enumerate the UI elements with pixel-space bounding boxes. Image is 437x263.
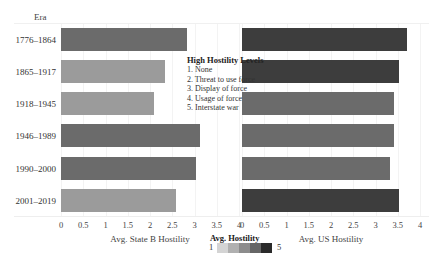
annotation-item: 3. Display of force xyxy=(187,84,264,94)
color-legend-ramp xyxy=(217,243,272,253)
gridline xyxy=(398,24,399,216)
gridline xyxy=(420,24,421,216)
axis-tick-label: 2 xyxy=(148,220,152,230)
state-b-bar[interactable] xyxy=(61,60,165,83)
us-bar[interactable] xyxy=(242,157,390,180)
color-legend-max: 5 xyxy=(277,242,281,252)
axis-tick-label: 2.5 xyxy=(348,220,359,230)
color-legend-title: Avg. Hostility xyxy=(210,233,259,243)
gridline xyxy=(287,24,288,216)
axis-tick-label: 1 xyxy=(103,220,107,230)
axis-tick-label: 0.5 xyxy=(78,220,89,230)
state-b-bar[interactable] xyxy=(61,124,200,147)
gridline xyxy=(217,24,218,216)
era-column-header: Era xyxy=(34,12,47,22)
color-legend-min: 1 xyxy=(209,242,213,252)
hostility-levels-annotation: High Hostility Levels 1. None 2. Threat … xyxy=(187,55,264,113)
axis-tick-label: 2.5 xyxy=(167,220,178,230)
axis-tick-label: 1 xyxy=(284,220,288,230)
axis-tick-label: 4 xyxy=(418,220,422,230)
state-b-axis-title: Avg. State B Hostility xyxy=(110,234,189,244)
annotation-item: 1. None xyxy=(187,65,264,75)
annotation-title: High Hostility Levels xyxy=(187,55,264,65)
era-label: 1946–1989 xyxy=(14,131,56,141)
axis-tick-label: 3 xyxy=(373,220,377,230)
axis-baseline xyxy=(14,216,429,217)
us-bar[interactable] xyxy=(242,92,394,115)
color-legend-swatch xyxy=(250,243,261,253)
gridline xyxy=(83,24,84,216)
gridline xyxy=(309,24,310,216)
gridline xyxy=(61,24,62,216)
era-label: 1776–1864 xyxy=(14,35,56,45)
axis-tick-label: 2 xyxy=(329,220,333,230)
axis-tick-label: 1.5 xyxy=(122,220,133,230)
era-label: 1865–1917 xyxy=(14,67,56,77)
state-b-bar[interactable] xyxy=(61,189,176,212)
us-bar[interactable] xyxy=(242,124,394,147)
gridline xyxy=(172,24,173,216)
color-legend-swatch xyxy=(261,243,272,253)
axis-tick-label: 3.5 xyxy=(211,220,222,230)
annotation-item: 4. Usage of force xyxy=(187,94,264,104)
era-label: 1918–1945 xyxy=(14,99,56,109)
axis-tick-label: 0 xyxy=(59,220,63,230)
gridline xyxy=(106,24,107,216)
gridline xyxy=(353,24,354,216)
gridline xyxy=(239,24,240,216)
color-legend-swatch xyxy=(217,243,228,253)
color-legend-swatch xyxy=(239,243,250,253)
gridline xyxy=(150,24,151,216)
axis-tick-label: 3 xyxy=(192,220,196,230)
us-bar[interactable] xyxy=(242,60,399,83)
gridline xyxy=(376,24,377,216)
state-b-bar[interactable] xyxy=(61,28,187,51)
gridline xyxy=(242,24,243,216)
gridline xyxy=(195,24,196,216)
axis-tick-label: 1.5 xyxy=(303,220,314,230)
annotation-item: 5. Interstate war xyxy=(187,103,264,113)
gridline xyxy=(264,24,265,216)
era-label: 1990–2000 xyxy=(14,164,56,174)
era-label: 2001–2019 xyxy=(14,196,56,206)
gridline xyxy=(331,24,332,216)
us-axis-title: Avg. US Hostility xyxy=(299,234,364,244)
state-b-bar[interactable] xyxy=(61,157,196,180)
axis-tick-label: 0.5 xyxy=(259,220,270,230)
axis-tick-label: 3.5 xyxy=(392,220,403,230)
gridline xyxy=(128,24,129,216)
header-divider xyxy=(14,23,429,24)
us-bar[interactable] xyxy=(242,189,399,212)
color-legend-swatch xyxy=(228,243,239,253)
us-bar[interactable] xyxy=(242,28,407,51)
annotation-item: 2. Threat to use force xyxy=(187,75,264,85)
axis-tick-label: 0 xyxy=(240,220,244,230)
state-b-bar[interactable] xyxy=(61,92,154,115)
